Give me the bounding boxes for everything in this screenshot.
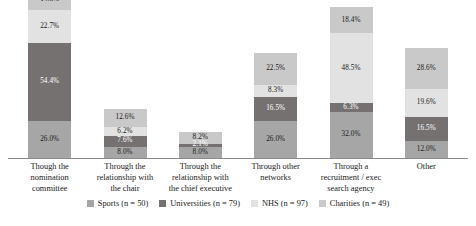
x-axis-category-label: Other	[389, 161, 464, 172]
bar-segment[interactable]: 8.3%	[254, 85, 297, 97]
bar-segment[interactable]: 12.6%	[104, 109, 147, 127]
legend-item[interactable]: Sports (n = 50)	[87, 199, 149, 208]
legend-label: Universities (n = 79)	[170, 199, 240, 208]
bar-segment[interactable]: 7.6%	[104, 136, 147, 147]
x-axis-category-label: Through arecruitment / execsearch agency	[313, 161, 388, 195]
bar-column[interactable]: 28.6%19.6%16.5%12.0%	[405, 48, 448, 158]
legend-item[interactable]: Charities (n = 49)	[319, 199, 389, 208]
legend-label: Charities (n = 49)	[330, 199, 389, 208]
bar-segment-value-label: 8.0%	[117, 149, 132, 156]
x-axis-category-label-line: Through the	[163, 161, 238, 172]
x-axis-category-label-line: Other	[389, 161, 464, 172]
x-axis-category-label: Through othernetworks	[238, 161, 313, 183]
bar-segment-value-label: 54.4%	[40, 78, 59, 85]
x-axis-category-label-line: Through a	[313, 161, 388, 172]
bar-segment-value-label: 16.5%	[417, 125, 436, 132]
x-axis-category-label: Through therelationship withthe chair	[87, 161, 162, 195]
bar-segment-value-label: 8.0%	[193, 149, 208, 156]
bar-segment[interactable]: 6.2%	[104, 127, 147, 136]
bar-segment-value-label: 6.2%	[117, 128, 132, 135]
bar-segment[interactable]: 16.5%	[405, 117, 448, 141]
bar-segment-value-label: 32.0%	[341, 131, 360, 138]
x-axis-category-label: Though thenominationcommittee	[12, 161, 87, 195]
chart-legend: Sports (n = 50)Universities (n = 79)NHS …	[0, 199, 476, 208]
bar-segment[interactable]: 22.7%	[28, 10, 71, 43]
bar-segment-value-label: 48.5%	[341, 65, 360, 72]
bar-segment-value-label: 14.3%	[40, 0, 59, 3]
bar-segment[interactable]: 6.3%	[330, 103, 373, 112]
bar-segment-value-label: 12.6%	[115, 114, 134, 121]
x-axis-category-label-line: relationship with	[87, 172, 162, 183]
bar-segment-value-label: 12.0%	[417, 146, 436, 153]
bar-column[interactable]: 14.3%22.7%54.4%26.0%	[28, 0, 71, 158]
bar-segment-value-label: 26.0%	[40, 136, 59, 143]
plot-area: 14.3%22.7%54.4%26.0%12.6%6.2%7.6%8.0%8.2…	[0, 0, 476, 159]
bar-column[interactable]: 18.4%48.5%6.3%32.0%	[330, 7, 373, 158]
legend-swatch-icon	[319, 200, 326, 207]
x-axis-category-label-line: networks	[238, 172, 313, 183]
legend-swatch-icon	[87, 200, 94, 207]
bar-segment[interactable]: 19.6%	[405, 89, 448, 117]
bar-segment-value-label: 7.6%	[117, 137, 132, 144]
bar-segment[interactable]: 18.4%	[330, 7, 373, 33]
bar-segment[interactable]: 12.0%	[405, 141, 448, 158]
legend-swatch-icon	[251, 200, 258, 207]
x-axis-category-label-line: Through the	[87, 161, 162, 172]
bar-segment[interactable]: 32.0%	[330, 112, 373, 158]
x-axis-line	[8, 158, 468, 159]
x-axis-category-label-line: committee	[12, 183, 87, 194]
x-axis-category-label-line: Though the	[12, 161, 87, 172]
bar-column[interactable]: 8.2%2.1%8.0%	[179, 132, 222, 158]
stacked-bar-chart: 14.3%22.7%54.4%26.0%12.6%6.2%7.6%8.0%8.2…	[0, 0, 476, 226]
bar-segment[interactable]: 8.0%	[179, 147, 222, 159]
legend-item[interactable]: Universities (n = 79)	[159, 199, 240, 208]
bar-segment-value-label: 18.4%	[341, 17, 360, 24]
x-axis-category-label-line: recruitment / exec	[313, 172, 388, 183]
bar-segment[interactable]: 54.4%	[28, 43, 71, 121]
bar-segment-value-label: 16.5%	[266, 105, 285, 112]
legend-label: Sports (n = 50)	[98, 199, 149, 208]
x-axis-category-label-line: the chief executive	[163, 183, 238, 194]
bar-segment[interactable]: 8.0%	[104, 147, 147, 159]
bar-segment-value-label: 8.3%	[268, 87, 283, 94]
bar-segment[interactable]: 22.5%	[254, 53, 297, 85]
legend-item[interactable]: NHS (n = 97)	[251, 199, 308, 208]
legend-swatch-icon	[159, 200, 166, 207]
bar-segment[interactable]: 26.0%	[254, 121, 297, 158]
bar-segment[interactable]: 28.6%	[405, 48, 448, 89]
bar-column[interactable]: 12.6%6.2%7.6%8.0%	[104, 109, 147, 158]
bar-segment-value-label: 28.6%	[417, 65, 436, 72]
bar-segment[interactable]: 26.0%	[28, 121, 71, 158]
legend-label: NHS (n = 97)	[262, 199, 308, 208]
x-axis-category-label-line: search agency	[313, 183, 388, 194]
bar-segment-value-label: 22.5%	[266, 65, 285, 72]
bar-segment[interactable]: 16.5%	[254, 97, 297, 121]
bar-segment-value-label: 6.3%	[343, 104, 358, 111]
bar-column[interactable]: 22.5%8.3%16.5%26.0%	[254, 53, 297, 158]
x-axis-category-label-line: the chair	[87, 183, 162, 194]
bar-segment[interactable]: 48.5%	[330, 33, 373, 103]
x-axis-category-labels: Though thenominationcommitteeThrough the…	[0, 161, 476, 197]
bar-segment-value-label: 19.6%	[417, 99, 436, 106]
bar-segment[interactable]: 14.3%	[28, 0, 71, 10]
x-axis-category-label-line: relationship with	[163, 172, 238, 183]
x-axis-category-label: Through therelationship withthe chief ex…	[163, 161, 238, 195]
x-axis-category-label-line: nomination	[12, 172, 87, 183]
x-axis-category-label-line: Through other	[238, 161, 313, 172]
bar-segment-value-label: 22.7%	[40, 23, 59, 30]
bar-segment-value-label: 26.0%	[266, 136, 285, 143]
